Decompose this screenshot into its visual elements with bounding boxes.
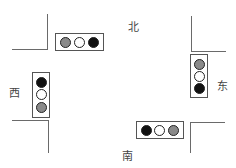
signal-light-icon [36, 102, 47, 113]
traffic-signal-north [55, 33, 104, 51]
signal-light-icon [36, 77, 47, 88]
signal-light-icon [194, 59, 205, 70]
direction-label-north: 北 [128, 22, 139, 33]
curb-ne-horizontal [191, 51, 226, 52]
curb-nw-vertical [47, 14, 48, 50]
direction-label-west: 西 [9, 88, 20, 99]
signal-light-icon [154, 125, 165, 136]
signal-light-icon [141, 125, 152, 136]
curb-se-horizontal [190, 122, 225, 123]
direction-label-south: 南 [122, 151, 133, 162]
signal-light-icon [194, 71, 205, 82]
signal-light-icon [88, 37, 99, 48]
signal-light-icon [74, 37, 85, 48]
curb-sw-vertical [48, 120, 49, 153]
curb-sw-horizontal [12, 120, 49, 121]
signal-light-icon [60, 37, 71, 48]
signal-light-icon [168, 125, 179, 136]
curb-se-vertical [190, 122, 191, 153]
intersection-diagram: 北 东 南 西 [0, 0, 236, 168]
traffic-signal-west [32, 72, 50, 118]
signal-light-icon [194, 83, 205, 94]
curb-ne-vertical [191, 16, 192, 52]
signal-light-icon [36, 89, 47, 100]
traffic-signal-east [190, 54, 208, 98]
direction-label-east: 东 [217, 81, 228, 92]
curb-nw-horizontal [12, 49, 48, 50]
traffic-signal-south [136, 121, 184, 139]
